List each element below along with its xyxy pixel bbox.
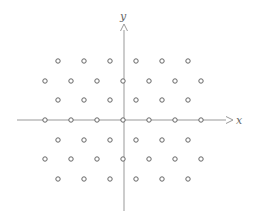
lattice-point xyxy=(186,177,190,181)
lattice-point xyxy=(134,177,138,181)
lattice-point xyxy=(173,79,177,83)
lattice-point xyxy=(69,79,73,83)
lattice-point xyxy=(82,177,86,181)
lattice-point xyxy=(43,118,47,122)
lattice-point xyxy=(121,79,125,83)
lattice-point xyxy=(134,59,138,63)
lattice-point xyxy=(95,157,99,161)
y-axis-label: y xyxy=(119,10,127,23)
x-axis: x xyxy=(17,114,243,127)
lattice-point xyxy=(199,157,203,161)
lattice-point xyxy=(160,177,164,181)
lattice-point xyxy=(56,59,60,63)
lattice-point xyxy=(160,59,164,63)
lattice-point xyxy=(121,157,125,161)
lattice-point xyxy=(43,79,47,83)
lattice-point xyxy=(56,138,60,142)
lattice-point xyxy=(173,118,177,122)
lattice-point xyxy=(82,59,86,63)
x-axis-label: x xyxy=(236,114,243,127)
lattice-point xyxy=(82,138,86,142)
lattice-point xyxy=(108,98,112,102)
lattice-point xyxy=(173,157,177,161)
lattice-point xyxy=(199,118,203,122)
y-axis-arrow-icon xyxy=(121,24,128,31)
lattice-point xyxy=(160,138,164,142)
lattice-point xyxy=(56,177,60,181)
lattice-point xyxy=(186,59,190,63)
lattice-diagram: x y xyxy=(0,0,254,219)
y-axis: y xyxy=(119,10,128,211)
lattice-point xyxy=(186,98,190,102)
lattice-point xyxy=(186,138,190,142)
lattice-point xyxy=(108,59,112,63)
lattice-point xyxy=(108,138,112,142)
x-axis-arrow-icon xyxy=(226,117,233,124)
lattice-point xyxy=(69,118,73,122)
lattice-point xyxy=(82,98,86,102)
lattice-point xyxy=(108,177,112,181)
lattice-point xyxy=(95,118,99,122)
lattice-point xyxy=(43,157,47,161)
lattice-point xyxy=(56,98,60,102)
lattice-point xyxy=(134,98,138,102)
lattice-point xyxy=(147,157,151,161)
lattice-point xyxy=(147,118,151,122)
lattice-point xyxy=(160,98,164,102)
lattice-point xyxy=(147,79,151,83)
lattice-point xyxy=(95,79,99,83)
lattice-point xyxy=(121,118,125,122)
lattice-point xyxy=(199,79,203,83)
lattice-point xyxy=(134,138,138,142)
lattice-point xyxy=(69,157,73,161)
